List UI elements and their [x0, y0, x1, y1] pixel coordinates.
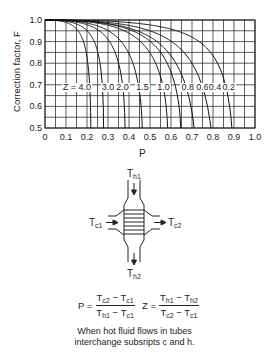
- note-line-1: When hot fluid flows in tubes: [0, 326, 269, 337]
- label-tc2: Tc2: [168, 218, 182, 231]
- note-line-2: interchange subsripts c and h.: [0, 337, 269, 348]
- label-th1: Th1: [127, 169, 141, 182]
- label-tc1: Tc1: [89, 218, 103, 231]
- heat-exchanger-diagram: [0, 0, 269, 280]
- label-th2: Th2: [127, 269, 141, 282]
- z-equation: Z = Th1 − Th2 Tc2 − Tc1: [142, 292, 199, 319]
- p-equation: P = Tc2 − Tc1 Th1 − Tc1: [78, 292, 135, 319]
